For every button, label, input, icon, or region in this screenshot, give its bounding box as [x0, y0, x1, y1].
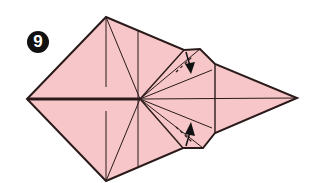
step-number-badge: 9	[27, 31, 49, 53]
origami-diagram	[0, 0, 314, 183]
